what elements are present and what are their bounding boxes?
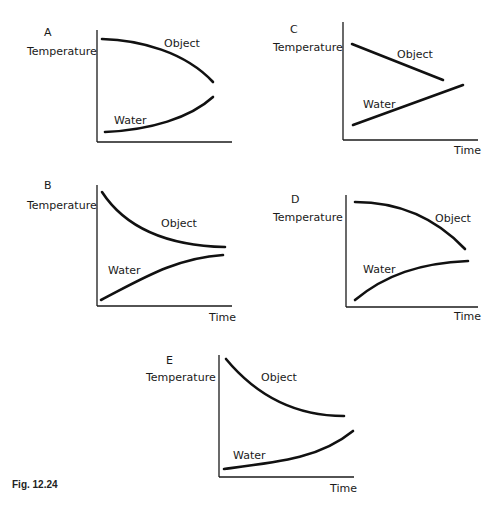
object-label: Object: [435, 212, 472, 225]
water-label: Water: [108, 264, 141, 277]
object-label: Object: [261, 371, 298, 384]
y-axis-label: Temperature: [26, 199, 97, 212]
panel-letter: E: [166, 354, 173, 367]
panel-letter: B: [44, 179, 52, 192]
panel-d: D Temperature Object Water Time: [272, 193, 481, 323]
water-label: Water: [233, 449, 266, 462]
panel-letter: D: [291, 193, 299, 206]
y-axis-label: Temperature: [272, 211, 343, 224]
panel-c: C Temperature Object Water Time: [272, 22, 481, 157]
x-axis-label: Time: [453, 144, 481, 157]
object-label: Object: [161, 217, 198, 230]
x-axis-label: Time: [453, 310, 481, 323]
x-axis-label: Time: [208, 311, 236, 324]
panel-letter: A: [44, 26, 52, 39]
figure-12-24: A Temperature Object Water C Temperature…: [0, 0, 503, 508]
object-curve: [226, 359, 344, 416]
x-axis-label: Time: [329, 482, 357, 495]
object-label: Object: [397, 48, 434, 61]
panel-b: B Temperature Object Water Time: [26, 179, 236, 324]
water-curve: [101, 255, 223, 300]
water-label: Water: [363, 98, 396, 111]
panel-letter: C: [290, 23, 298, 36]
y-axis-label: Temperature: [272, 41, 343, 54]
object-curve: [355, 202, 465, 249]
water-label: Water: [363, 263, 396, 276]
y-axis-label: Temperature: [145, 371, 216, 384]
panel-a: A Temperature Object Water: [26, 26, 232, 142]
water-label: Water: [114, 114, 147, 127]
y-axis-label: Temperature: [26, 45, 97, 58]
figure-caption: Fig. 12.24: [12, 479, 58, 490]
panel-e: E Temperature Object Water Time: [145, 354, 357, 495]
object-label: Object: [164, 37, 201, 50]
